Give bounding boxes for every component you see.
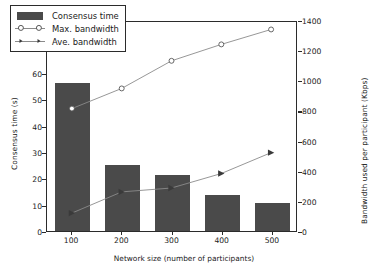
legend-label: Consensus time xyxy=(52,11,119,21)
y-axis-left: 01020304050607080 xyxy=(18,21,42,232)
x-axis-tickmark xyxy=(272,231,273,235)
x-axis-tickmark xyxy=(121,231,122,235)
y-axis-right-tickmark xyxy=(298,111,302,112)
chart-legend: Consensus timeMax. bandwidthAve. bandwid… xyxy=(10,5,126,52)
y-axis-left-tick-30: 30 xyxy=(32,148,42,157)
y-axis-left-title: Consensus time (s) xyxy=(10,97,19,170)
legend-circle-icon xyxy=(36,25,42,31)
legend-triangle-icon xyxy=(20,39,23,43)
y-axis-right-tick-400: 400 xyxy=(302,167,317,176)
legend-item-1: Max. bandwidth xyxy=(15,22,119,35)
y-axis-left-tick-60: 60 xyxy=(32,69,42,78)
x-axis-tickmark xyxy=(172,231,173,235)
legend-triangle-icon xyxy=(38,39,41,43)
legend-label: Ave. bandwidth xyxy=(52,37,117,47)
y-axis-right-tickmark xyxy=(298,142,302,143)
legend-swatch-icon xyxy=(17,12,43,20)
marker-circle-200: Max. bandwidth @ 200: 955 Kbps xyxy=(119,86,124,91)
y-axis-right-tick-200: 200 xyxy=(302,197,317,206)
marker-triangle-right-400: Ave. bandwidth @ 400: 385 Kbps xyxy=(218,170,224,176)
legend-key-triangle-marker-line xyxy=(15,36,45,47)
marker-circle-300: Max. bandwidth @ 300: 1140 Kbps xyxy=(169,58,174,63)
marker-circle-400: Max. bandwidth @ 400: 1250 Kbps xyxy=(219,42,224,47)
line-series: Max. bandwidth @ 100: 820 KbpsMax. bandw… xyxy=(47,22,296,231)
y-axis-right-tick-600: 600 xyxy=(302,137,317,146)
y-axis-right-tick-800: 800 xyxy=(302,107,317,116)
x-axis-tickmark xyxy=(71,231,72,235)
marker-triangle-right-300: Ave. bandwidth @ 300: 288 Kbps xyxy=(168,185,174,191)
y-axis-right-tickmark xyxy=(298,202,302,203)
legend-item-0: Consensus time xyxy=(15,9,119,22)
x-axis-tick-300: 300 xyxy=(164,236,179,245)
x-axis-tick-200: 200 xyxy=(114,236,129,245)
y-axis-right-tick-1000: 1000 xyxy=(302,77,321,86)
y-axis-right-tick-0: 0 xyxy=(302,228,307,237)
x-axis-tick-400: 400 xyxy=(214,236,229,245)
y-axis-left-tick-40: 40 xyxy=(32,122,42,131)
x-axis-title: Network size (number of participants) xyxy=(0,254,368,263)
legend-key-bar-swatch xyxy=(15,10,45,21)
y-axis-left-tick-0: 0 xyxy=(37,228,42,237)
x-axis-tickmark xyxy=(222,231,223,235)
marker-circle-100: Max. bandwidth @ 100: 820 Kbps xyxy=(69,106,74,111)
y-axis-right-tick-1400: 1400 xyxy=(302,17,321,26)
y-axis-left-tick-50: 50 xyxy=(32,96,42,105)
y-axis-right-tickmark xyxy=(298,21,302,22)
legend-label: Max. bandwidth xyxy=(52,24,119,34)
marker-triangle-right-500: Ave. bandwidth @ 500: 525 Kbps xyxy=(268,149,274,155)
x-axis: 100200300400500 xyxy=(46,234,297,248)
y-axis-right: 0200400600800100012001400 xyxy=(302,21,332,232)
plot-area: Max. bandwidth @ 100: 820 KbpsMax. bandw… xyxy=(46,21,297,232)
marker-triangle-right-100: Ave. bandwidth @ 100: 120 Kbps xyxy=(69,210,75,216)
y-axis-left-tickmark xyxy=(42,232,46,233)
marker-triangle-right-200: Ave. bandwidth @ 200: 262 Kbps xyxy=(119,189,125,195)
y-axis-right-tickmark xyxy=(298,81,302,82)
marker-circle-500: Max. bandwidth @ 500: 1350 Kbps xyxy=(269,27,274,32)
legend-circle-icon xyxy=(18,25,24,31)
y-axis-right-tickmark xyxy=(298,172,302,173)
legend-key-circle-marker-line xyxy=(15,23,45,34)
legend-item-2: Ave. bandwidth xyxy=(15,35,119,48)
x-axis-tick-100: 100 xyxy=(64,236,79,245)
y-axis-right-tickmark xyxy=(298,232,302,233)
y-axis-right-title: Bandwidth used per participant (Kbps) xyxy=(360,78,369,224)
x-axis-tick-500: 500 xyxy=(265,236,280,245)
y-axis-right-tickmark xyxy=(298,51,302,52)
y-axis-left-tick-20: 20 xyxy=(32,175,42,184)
y-axis-left-tick-10: 10 xyxy=(32,201,42,210)
y-axis-right-tick-1200: 1200 xyxy=(302,47,321,56)
line-triangle-right xyxy=(72,153,271,213)
